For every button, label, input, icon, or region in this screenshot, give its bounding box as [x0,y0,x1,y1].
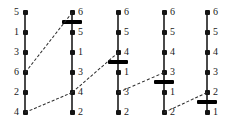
bar-c3 [108,60,128,64]
label-c2-r1: 6 [78,7,83,17]
node-c5-r6 [205,110,210,115]
node-c1-r1 [23,10,28,15]
label-c4-r5: 1 [170,87,175,97]
label-c1-r5: 2 [5,87,19,97]
node-c2-r2 [70,30,75,35]
node-c4-r2 [162,30,167,35]
label-c1-r1: 5 [5,7,19,17]
node-c4-r3 [162,50,167,55]
node-c5-r1 [205,10,210,15]
bar-c4 [154,80,174,84]
label-c3-r1: 6 [124,7,129,17]
label-c5-r6: 1 [213,107,218,117]
label-c3-r6: 2 [124,107,129,117]
bar-c5 [197,100,217,104]
node-c3-r1 [116,10,121,15]
column-4-spine [163,12,165,112]
node-c3-r6 [116,110,121,115]
node-c1-r3 [23,50,28,55]
label-c2-r6: 2 [78,107,83,117]
label-c4-r4: 3 [170,67,175,77]
permutation-ladder-diagram: 513624651342654132654312654321 [0,0,230,123]
label-c5-r3: 4 [213,47,218,57]
label-c5-r1: 6 [213,7,218,17]
node-c2-r4 [70,70,75,75]
label-c2-r4: 3 [78,67,83,77]
label-c5-r4: 3 [213,67,218,77]
label-c4-r3: 4 [170,47,175,57]
node-c3-r2 [116,30,121,35]
node-c1-r5 [23,90,28,95]
label-c3-r2: 5 [124,27,129,37]
label-c1-r4: 6 [5,67,19,77]
label-c2-r2: 5 [78,27,83,37]
node-c2-r3 [70,50,75,55]
node-c4-r5 [162,90,167,95]
node-c4-r1 [162,10,167,15]
label-c5-r2: 5 [213,27,218,37]
column-2-spine [71,12,73,112]
column-5-spine [206,12,208,112]
label-c5-r5: 2 [213,87,218,97]
label-c1-r6: 4 [5,107,19,117]
label-c1-r3: 3 [5,47,19,57]
node-c1-r2 [23,30,28,35]
edge-2 [25,92,72,113]
label-c4-r1: 6 [170,7,175,17]
label-c2-r5: 4 [78,87,83,97]
label-c1-r2: 1 [5,27,19,37]
node-c2-r6 [70,110,75,115]
node-c5-r2 [205,30,210,35]
node-c3-r4 [116,70,121,75]
label-c2-r3: 1 [78,47,83,57]
edge-1 [25,12,73,73]
label-c3-r4: 1 [124,67,129,77]
column-1-spine [24,12,26,112]
label-c3-r3: 4 [124,47,129,57]
label-c4-r2: 5 [170,27,175,37]
node-c5-r3 [205,50,210,55]
node-c5-r4 [205,70,210,75]
